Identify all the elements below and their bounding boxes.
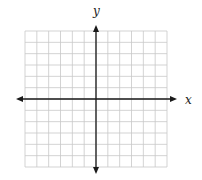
- arrow-down-icon: [93, 167, 99, 174]
- x-axis-label: x: [185, 93, 192, 107]
- coordinate-plane: x y: [0, 0, 202, 180]
- arrow-left-icon: [16, 96, 23, 102]
- arrow-up-icon: [93, 25, 99, 32]
- axes: [16, 25, 177, 174]
- y-axis-label: y: [92, 4, 100, 18]
- arrow-right-icon: [170, 96, 177, 102]
